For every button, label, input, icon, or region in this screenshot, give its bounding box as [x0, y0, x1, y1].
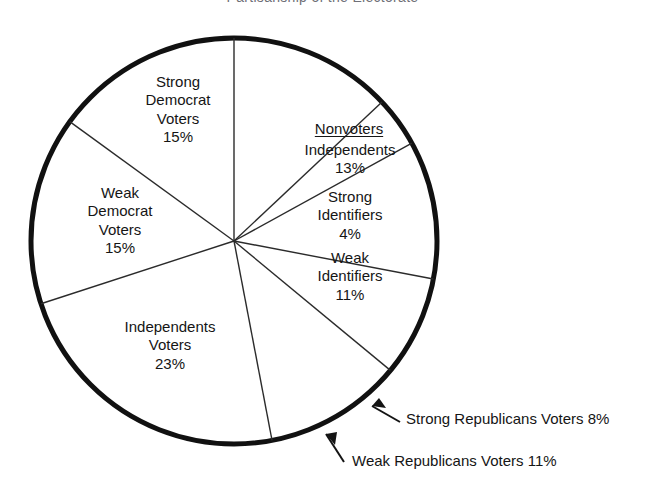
label-line: Identifiers: [276, 267, 424, 285]
label-line: Strong: [116, 73, 240, 91]
leader-weak-republicans: [326, 432, 344, 462]
label-line: Voters: [58, 221, 182, 239]
slice-label-nonvoters-strong-identifiers: Strong Identifiers 4%: [276, 188, 424, 243]
label-line: Weak: [276, 249, 424, 267]
slice-label-weak-democrat: Weak Democrat Voters 15%: [58, 184, 182, 257]
label-percent: 15%: [58, 239, 182, 257]
chart-canvas: Partisanship of the Electorate Strong De…: [0, 0, 645, 494]
label-line: Weak: [58, 184, 182, 202]
label-percent: 15%: [116, 128, 240, 146]
label-line: Strong: [276, 188, 424, 206]
slice-label-strong-democrat: Strong Democrat Voters 15%: [116, 73, 240, 146]
callout-weak-republicans: Weak Republicans Voters 11%: [352, 452, 557, 469]
label-line: Democrat: [58, 202, 182, 220]
label-percent: 11%: [276, 286, 424, 304]
label-line: Voters: [116, 110, 240, 128]
label-percent: 4%: [276, 225, 424, 243]
label-percent: 23%: [94, 355, 246, 373]
slice-label-nonvoters-independents: Independents 13%: [276, 141, 424, 178]
label-line: Voters: [94, 336, 246, 354]
label-line: Independents: [94, 318, 246, 336]
label-line: Independents: [276, 141, 424, 159]
slice-label-independents-voters: Independents Voters 23%: [94, 318, 246, 373]
group-heading-text: Nonvoters: [280, 120, 418, 138]
slice-label-nonvoters-weak-identifiers: Weak Identifiers 11%: [276, 249, 424, 304]
label-percent: 13%: [276, 159, 424, 177]
leader-strong-republicans: [372, 398, 400, 422]
label-line: Identifiers: [276, 206, 424, 224]
callout-strong-republicans: Strong Republicans Voters 8%: [406, 410, 609, 427]
group-heading-nonvoters: Nonvoters: [280, 120, 418, 138]
label-line: Democrat: [116, 91, 240, 109]
